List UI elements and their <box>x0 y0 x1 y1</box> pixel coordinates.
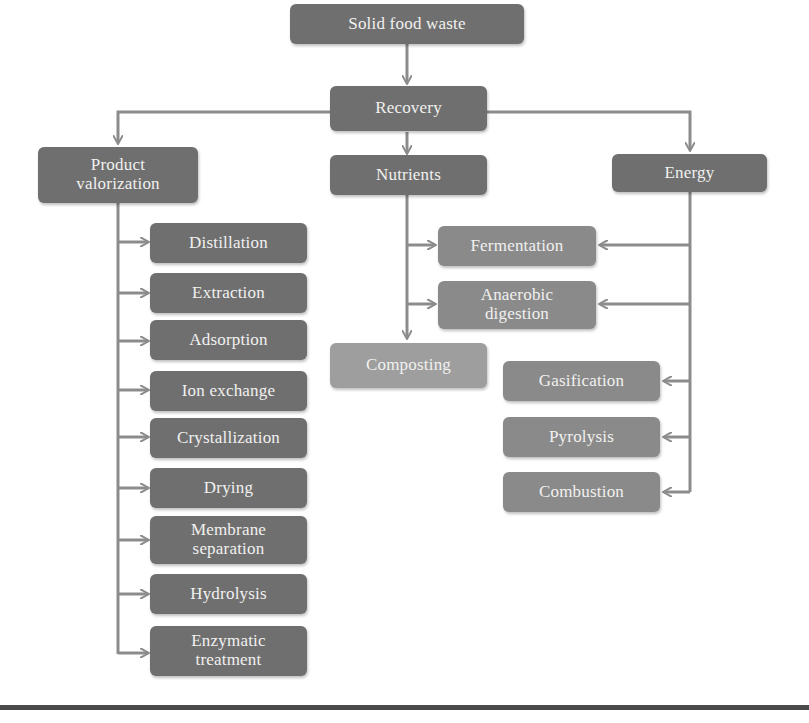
node-label: Fermentation <box>470 237 563 256</box>
node-pyrolysis: Pyrolysis <box>503 417 660 457</box>
node-recovery: Recovery <box>330 86 487 131</box>
node-label-line2: separation <box>193 540 265 559</box>
node-label: Hydrolysis <box>190 585 267 604</box>
node-label: Extraction <box>192 284 265 303</box>
node-drying: Drying <box>150 468 307 508</box>
node-label: Adsorption <box>189 331 268 350</box>
node-energy: Energy <box>612 154 767 192</box>
bottom-divider-rule <box>0 705 809 710</box>
node-label-line2: digestion <box>485 305 549 324</box>
node-label-line2: valorization <box>76 175 160 194</box>
node-label-line1: Anaerobic <box>481 286 554 305</box>
node-solid-food-waste: Solid food waste <box>290 4 524 44</box>
node-membrane-separation: Membrane separation <box>150 516 307 564</box>
node-label: Composting <box>366 356 451 375</box>
node-adsorption: Adsorption <box>150 320 307 360</box>
node-label: Crystallization <box>177 429 280 448</box>
node-ion-exchange: Ion exchange <box>150 371 307 411</box>
node-label: Solid food waste <box>348 15 465 34</box>
node-label-line1: Product <box>91 156 145 175</box>
node-label: Nutrients <box>376 166 441 185</box>
node-label: Recovery <box>375 99 442 118</box>
node-nutrients: Nutrients <box>330 155 487 195</box>
node-label-line1: Membrane <box>191 521 266 540</box>
node-product-valorization: Product valorization <box>38 147 198 203</box>
node-extraction: Extraction <box>150 273 307 313</box>
node-combustion: Combustion <box>503 472 660 512</box>
node-label: Pyrolysis <box>549 428 614 447</box>
node-label: Drying <box>204 479 253 498</box>
node-distillation: Distillation <box>150 223 307 263</box>
node-label: Distillation <box>189 234 268 253</box>
node-enzymatic-treatment: Enzymatic treatment <box>150 626 307 676</box>
node-anaerobic-digestion: Anaerobic digestion <box>438 281 596 329</box>
node-hydrolysis: Hydrolysis <box>150 574 307 614</box>
node-label-line2: treatment <box>196 651 262 670</box>
node-label: Gasification <box>539 372 624 391</box>
node-crystallization: Crystallization <box>150 418 307 458</box>
node-composting: Composting <box>330 343 487 388</box>
node-gasification: Gasification <box>503 361 660 401</box>
node-label-line1: Enzymatic <box>191 632 266 651</box>
node-label: Energy <box>665 164 715 183</box>
node-label: Ion exchange <box>182 382 276 401</box>
food-waste-recovery-diagram: Solid food waste Recovery Product valori… <box>0 0 809 723</box>
node-fermentation: Fermentation <box>438 226 596 266</box>
node-label: Combustion <box>539 483 624 502</box>
